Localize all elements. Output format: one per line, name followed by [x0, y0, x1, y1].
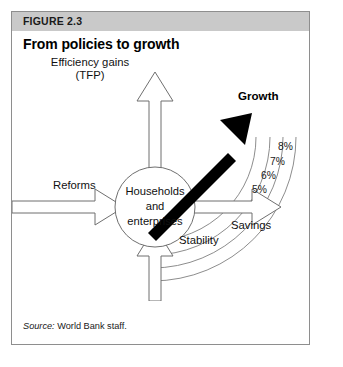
source-note: Source: World Bank staff.	[23, 321, 127, 331]
source-label: Source:	[23, 321, 55, 331]
isoquant-label-5: 5%	[252, 184, 267, 195]
isoquant-label-7: 7%	[270, 156, 285, 167]
savings-label: Savings	[231, 219, 271, 232]
reforms-label: Reforms	[53, 179, 96, 192]
hub-label-line3: enterprises	[127, 215, 182, 227]
reforms-arrow	[12, 189, 124, 225]
isoquant-label-8: 8%	[278, 141, 293, 152]
growth-label: Growth	[238, 89, 279, 102]
efficiency-gains-label-line2: (TFP)	[76, 69, 105, 81]
efficiency-gains-label: Efficiency gains (TFP)	[30, 56, 150, 82]
diagram-canvas: Efficiency gains (TFP) Reforms Savings S…	[12, 56, 309, 301]
hub-label: Households and enterprises	[112, 184, 198, 228]
source-text: World Bank staff.	[57, 321, 127, 331]
page-title: From policies to growth	[23, 36, 179, 52]
hub-label-line1: Households	[125, 185, 184, 197]
figure-number: FIGURE 2.3	[23, 15, 82, 27]
isoquant-label-6: 6%	[261, 170, 276, 181]
efficiency-gains-label-line1: Efficiency gains	[51, 56, 129, 68]
figure-container: FIGURE 2.3 From policies to growth	[11, 11, 310, 345]
stability-label: Stability	[179, 234, 219, 247]
hub-label-line2: and	[146, 200, 165, 212]
